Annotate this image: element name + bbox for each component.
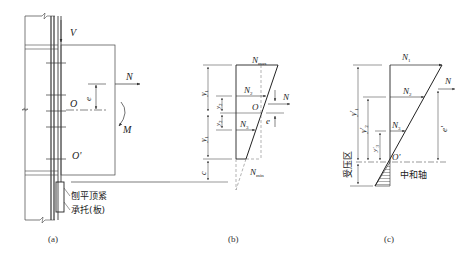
axial-label-c: N	[444, 76, 452, 86]
n3-label: N3	[239, 119, 249, 130]
moment-label: M	[122, 124, 132, 135]
seat-bracket	[56, 182, 64, 212]
shear-label: V	[70, 27, 78, 38]
n-max-label: Nmax	[251, 55, 267, 66]
note-planed-tight: 刨平顶紧	[71, 190, 107, 201]
diagram-canvas: V N e O M O' 刨平顶紧 承托(板) (a)	[0, 0, 473, 265]
panel-a: V N e O M O' 刨平顶紧 承托(板) (a)	[22, 13, 170, 244]
caption-b: (b)	[228, 234, 239, 244]
n3-label-c: N3	[391, 120, 401, 131]
y3-prime-label: y'3	[371, 144, 380, 153]
n1-label: N1	[401, 52, 411, 63]
compression-zone-label: 受压区	[342, 151, 353, 178]
center-label-b: O	[252, 102, 259, 112]
n2-label: N2	[243, 85, 253, 96]
moment-arrow-icon	[119, 102, 125, 126]
panel-b: Nmax Nmin N2 N3 O N e y1 y2 y2 y1 c	[170, 55, 290, 244]
break-mark-bottom-icon	[40, 217, 55, 223]
neutral-axis-label: 中和轴	[400, 169, 427, 180]
y2-bottom-label: y2	[214, 120, 223, 127]
e-prime-label: e'	[439, 125, 449, 132]
n2-label-c: N2	[402, 86, 412, 97]
caption-a: (a)	[48, 234, 58, 244]
eccentricity-label: e	[83, 97, 93, 101]
eccentricity-label-b: e	[266, 116, 270, 126]
panel-c: N1 N2 N3 O' 中和轴 N e' y'1 y'2 y'3 受压区 (c)	[342, 52, 455, 244]
axial-label: N	[125, 71, 134, 82]
axial-label-b: N	[282, 92, 290, 102]
y1-prime-label: y'1	[349, 108, 359, 117]
n-min-label: Nmin	[249, 167, 264, 178]
center-label: O	[70, 98, 77, 109]
y1-bottom-label: y1	[199, 135, 209, 143]
caption-c: (c)	[384, 234, 394, 244]
c-label: c	[199, 171, 208, 175]
y2-top-label: y2	[214, 103, 223, 110]
break-mark-top-icon	[42, 13, 55, 19]
stress-gradient-line	[246, 65, 278, 159]
center-prime-label: O'	[72, 150, 82, 161]
center-prime-label-c: O'	[392, 152, 401, 162]
y2-prime-label: y'2	[359, 125, 369, 134]
y1-top-label: y1	[199, 89, 209, 97]
stress-gradient-line-c	[375, 65, 442, 186]
note-bracket-plate: 承托(板)	[71, 204, 105, 215]
compression-zone-hatch	[375, 162, 390, 186]
bolt-rows	[46, 63, 66, 159]
